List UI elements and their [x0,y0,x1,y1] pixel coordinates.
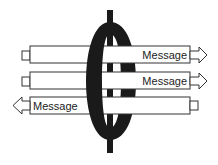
message-label: Message [33,100,78,112]
bar-tail-square [22,51,30,60]
message-ring-diagram: Message Message Message [0,0,218,165]
arrow-right-icon [190,73,207,89]
bar-tail-square [190,101,198,110]
arrow-right-icon [190,47,207,63]
message-label: Message [142,49,187,61]
message-label: Message [142,75,187,87]
arrow-left-icon [13,97,30,114]
message-bar-2: Message [22,72,207,89]
bar-tail-square [22,77,30,86]
message-bar-1: Message [22,46,207,63]
message-bar-3: Message [13,97,198,114]
